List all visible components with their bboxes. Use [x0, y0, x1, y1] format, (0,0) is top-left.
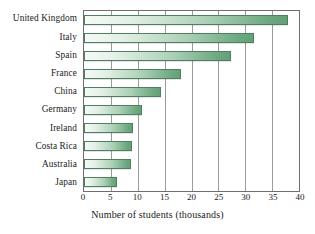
bar-row	[84, 29, 299, 47]
x-tick-label-15: 15	[160, 193, 169, 202]
category-label-italy: Italy	[0, 28, 81, 46]
category-label-costa-rica: Costa Rica	[0, 137, 81, 155]
bars-layer	[84, 11, 299, 191]
bar-row	[84, 173, 299, 191]
bar-row	[84, 83, 299, 101]
bar-spain[interactable]	[84, 51, 231, 62]
plot-area	[83, 10, 300, 192]
bar-china[interactable]	[84, 87, 161, 98]
bar-row	[84, 137, 299, 155]
bar-germany[interactable]	[84, 105, 142, 116]
bar-row	[84, 11, 299, 29]
x-tick-label-35: 35	[268, 193, 277, 202]
category-label-united-kingdom: United Kingdom	[0, 10, 81, 28]
x-axis-title: Number of students (thousands)	[0, 209, 315, 220]
bar-row	[84, 101, 299, 119]
category-label-australia: Australia	[0, 156, 81, 174]
category-label-china: China	[0, 83, 81, 101]
bar-row	[84, 65, 299, 83]
bar-australia[interactable]	[84, 159, 131, 170]
bar-row	[84, 119, 299, 137]
bar-united-kingdom[interactable]	[84, 15, 288, 26]
category-label-japan: Japan	[0, 174, 81, 192]
x-tick-label-40: 40	[296, 193, 305, 202]
bar-italy[interactable]	[84, 33, 254, 44]
category-label-germany: Germany	[0, 101, 81, 119]
x-tick-label-20: 20	[187, 193, 196, 202]
bar-row	[84, 155, 299, 173]
x-tick-label-5: 5	[108, 193, 113, 202]
bar-chart: United Kingdom Italy Spain France China …	[0, 0, 315, 234]
x-tick-label-10: 10	[133, 193, 142, 202]
bar-france[interactable]	[84, 69, 181, 80]
bar-ireland[interactable]	[84, 123, 133, 134]
x-tick-label-30: 30	[241, 193, 250, 202]
category-label-spain: Spain	[0, 46, 81, 64]
x-tick-label-0: 0	[81, 193, 86, 202]
bar-japan[interactable]	[84, 177, 117, 188]
category-axis: United Kingdom Italy Spain France China …	[0, 10, 81, 192]
bar-row	[84, 47, 299, 65]
bar-costa-rica[interactable]	[84, 141, 132, 152]
x-axis-tick-labels: 0510152025303540	[83, 193, 300, 205]
category-label-france: France	[0, 65, 81, 83]
category-label-ireland: Ireland	[0, 119, 81, 137]
x-tick-label-25: 25	[214, 193, 223, 202]
